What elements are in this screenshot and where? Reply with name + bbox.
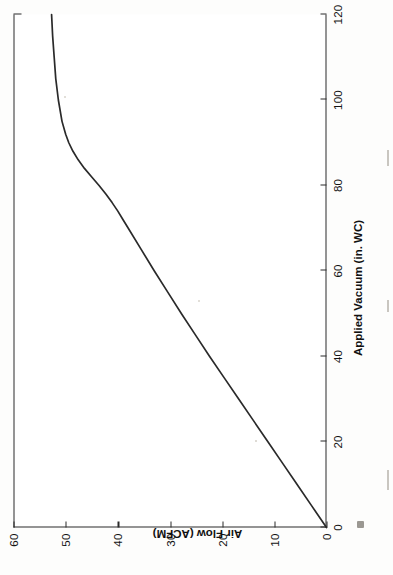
y-axis-tick-label: 50 (59, 533, 71, 563)
chart-figure: 020406080100120 0102030405060 Applied Va… (0, 0, 393, 575)
x-axis-tick-label: 60 (331, 264, 343, 277)
x-axis-tick (320, 98, 326, 99)
y-axis-tick (326, 521, 327, 527)
x-axis-tick-label: 0 (331, 524, 343, 531)
data-curve-layer (13, 14, 326, 527)
y-axis-tick-label: 60 (7, 533, 19, 563)
y-axis-tick (274, 521, 275, 527)
x-axis-title: Applied Vacuum (in. WC) (351, 219, 363, 355)
x-axis-tick-label: 80 (331, 178, 343, 191)
x-axis-tick-label: 120 (331, 4, 343, 24)
x-axis-tick (320, 13, 326, 14)
air-flow-curve (51, 14, 326, 527)
y-axis-tick (117, 521, 118, 527)
y-axis-tick (222, 521, 223, 527)
y-axis-tick (170, 521, 171, 527)
x-axis-tick (320, 184, 326, 185)
x-axis-tick-label: 100 (331, 90, 343, 110)
rotated-figure-container: 020406080100120 0102030405060 Applied Va… (0, 0, 393, 575)
scan-corner-smudge (357, 521, 364, 528)
x-axis-tick (320, 355, 326, 356)
y-axis-tick (13, 521, 14, 527)
x-axis-tick-label: 20 (331, 435, 343, 448)
scan-edge-marks (387, 0, 390, 575)
y-axis-title: Air Flow (ACFM) (117, 527, 277, 539)
x-axis-tick (320, 269, 326, 270)
x-axis-tick-label: 40 (331, 349, 343, 362)
y-axis-tick-label: 0 (320, 533, 332, 563)
x-axis-tick (320, 526, 326, 527)
y-axis-tick (65, 521, 66, 527)
scanned-page-background: 020406080100120 0102030405060 Applied Va… (0, 0, 393, 575)
x-axis-tick (320, 440, 326, 441)
